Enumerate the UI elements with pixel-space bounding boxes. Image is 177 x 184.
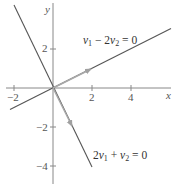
x-tick-label-4: 4 (128, 91, 134, 103)
label-v1-minus-2v2: v1 − 2v2 = 0 (83, 34, 137, 48)
y-axis-label: y (44, 3, 50, 15)
y-tick-label-neg2: −2 (36, 121, 48, 133)
x-axis-label: x (165, 89, 171, 101)
y-tick-label-2: 2 (42, 42, 48, 54)
phase-plane-figure: −2 2 4 2 −2 −4 x y v1 − 2v2 = 0 2v1 + v2… (0, 0, 177, 184)
x-tick-label-neg2: −2 (7, 91, 19, 103)
y-tick-label-neg4: −4 (36, 160, 48, 172)
vector-2-1-arrow (53, 69, 91, 88)
x-tick-label-2: 2 (89, 91, 95, 103)
vector-1-neg2-arrow (53, 88, 72, 126)
plot-canvas: −2 2 4 2 −2 −4 x y v1 − 2v2 = 0 2v1 + v2… (0, 0, 177, 184)
label-2v1-plus-v2: 2v1 + v2 = 0 (93, 149, 147, 163)
solution-lines (10, 5, 171, 167)
